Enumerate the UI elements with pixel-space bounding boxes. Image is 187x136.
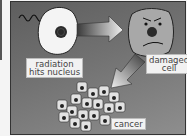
damaged-cell-icon [128, 9, 173, 57]
label-line: cancer [114, 120, 143, 128]
arrow-right-icon [77, 16, 123, 42]
label-damaged-cell: damaged cell [146, 54, 187, 74]
label-cancer: cancer [111, 118, 146, 130]
label-line: cell [149, 64, 187, 72]
label-radiation-hits-nucleus: radiation hits nucleus [26, 58, 83, 78]
page-edge-line [0, 0, 2, 60]
diagram-panel: radiation hits nucleus damaged cell canc… [10, 1, 186, 135]
healthy-cell-icon [38, 7, 78, 54]
arrow-down-left-icon [111, 54, 145, 88]
label-line: hits nucleus [29, 68, 80, 76]
